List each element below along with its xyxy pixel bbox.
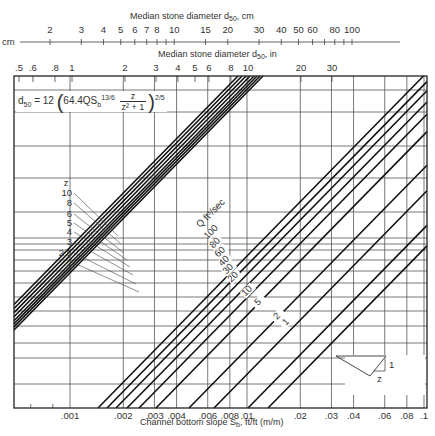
inch-tick-label: 1	[69, 62, 74, 73]
inch-tick-label: 2	[122, 62, 127, 73]
cm-tick-label: 60	[307, 24, 318, 35]
inch-tick-label: .5	[15, 62, 23, 73]
cm-tick-label: 100	[344, 24, 360, 35]
z-value-label: 2	[67, 257, 72, 268]
z-value-label: 8	[67, 197, 72, 208]
inch-tick-label: 4	[175, 62, 180, 73]
z-leader-line	[74, 263, 139, 292]
inch-tick-label: 30	[327, 62, 338, 73]
nomograph-chart: Median stone diameter d50, cm cm 2345678…	[0, 0, 435, 436]
z-value-label: 3	[67, 236, 72, 247]
slope-axis-title: Channel bottom slope Sb, ft/ft (m/m)	[140, 417, 283, 428]
slope-tick-label: .08	[400, 410, 413, 421]
slope-tick-label: .001	[61, 410, 80, 421]
inch-axis: Median stone diameter d50, in .5.6.81234…	[15, 49, 337, 82]
channel-section-inset: 1 z	[336, 355, 425, 395]
cm-tick-label: 10	[169, 24, 180, 35]
inset-label-z: z	[377, 373, 382, 384]
cm-tick-label: 6	[132, 24, 137, 35]
cm-tick-label: 2	[47, 24, 52, 35]
inset-label-one: 1	[389, 359, 394, 370]
cm-tick-label: 40	[276, 24, 287, 35]
cm-tick-label: 5	[118, 24, 123, 35]
inch-ticks: .5.6.81234568102030	[15, 62, 337, 82]
inch-tick-label: .6	[29, 62, 37, 73]
cm-tick-label: 20	[222, 24, 233, 35]
cm-tick-label: 8	[154, 24, 159, 35]
inch-axis-title: Median stone diameter d50, in	[158, 49, 277, 60]
fraction: zz² + 1	[120, 91, 147, 112]
cm-tick-label: 7	[144, 24, 149, 35]
slope-tick-label: .06	[378, 410, 391, 421]
inch-tick-label: 8	[228, 62, 233, 73]
inch-tick-label: 20	[296, 62, 307, 73]
cm-unit-label: cm	[2, 36, 15, 47]
inch-tick-label: 3	[153, 62, 158, 73]
slope-tick-label: .04	[347, 410, 360, 421]
slope-tick-label: .02	[294, 410, 307, 421]
inch-tick-label: 5	[192, 62, 197, 73]
cm-tick-label: 15	[200, 24, 211, 35]
z-leader-line	[74, 242, 133, 275]
cm-tick-label: 50	[293, 24, 304, 35]
slope-tick-label: .002	[114, 410, 133, 421]
cm-tick-label: 4	[101, 24, 106, 35]
cm-axis-title: Median stone diameter d50, cm	[130, 11, 254, 22]
slope-tick-label: .1	[420, 410, 428, 421]
inch-tick-label: .8	[51, 62, 59, 73]
design-equation: d50 = 12 (64.4QSb13/6 zz² + 1)2/5	[16, 91, 167, 112]
inch-tick-label: 10	[243, 62, 254, 73]
slope-tick-label: .03	[325, 410, 338, 421]
cm-tick-label: 30	[254, 24, 265, 35]
z-leader-line	[74, 253, 136, 284]
inch-tick-label: 6	[206, 62, 211, 73]
cm-tick-label: 80	[329, 24, 340, 35]
cm-axis: Median stone diameter d50, cm cm 2345678…	[2, 11, 400, 47]
cm-tick-label: 3	[79, 24, 84, 35]
q-value-labels: Q ft³/sec100806040302010521	[194, 196, 295, 330]
